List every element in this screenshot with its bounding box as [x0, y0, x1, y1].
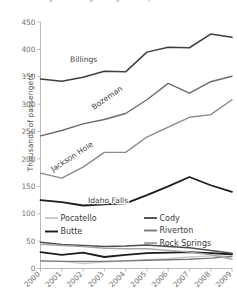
series-line-riverton	[41, 256, 233, 261]
y-tick-label: 450	[21, 18, 35, 27]
legend-label: Cody	[160, 214, 181, 223]
series-line-bozeman	[41, 76, 233, 136]
y-tick-label: 100	[21, 209, 35, 218]
legend-item-riverton[interactable]: Riverton	[144, 226, 193, 235]
y-tick-label: 250	[21, 127, 35, 136]
x-tick-label: 2007	[171, 269, 191, 289]
legend-item-butte[interactable]: Butte	[45, 227, 82, 236]
x-tick-label: 2005	[129, 269, 149, 289]
plot-area: 050100150200250300350400450 200020012002…	[0, 0, 237, 296]
inline-series-label-billings: Billings	[70, 55, 97, 64]
legend-item-pocatello[interactable]: Pocatello	[45, 214, 97, 223]
y-tick-label: 400	[21, 45, 35, 54]
passenger-boardings-line-chart: Passenger boardings at regional airports…	[0, 0, 237, 296]
series-line-jackson-hole	[41, 100, 233, 178]
legend-item-cody[interactable]: Cody	[144, 214, 180, 223]
x-tick-label: 2000	[22, 269, 42, 289]
y-tick-label: 200	[21, 155, 35, 164]
y-tick-label: 50	[26, 237, 36, 246]
x-tick-label: 2009	[214, 269, 234, 289]
x-tick-label: 2001	[44, 269, 64, 289]
inline-series-label-jackson-hole: Jackson Hole	[48, 140, 95, 175]
x-tick-label: 2008	[192, 269, 212, 289]
inline-series-label-bozeman: Bozeman	[90, 84, 124, 112]
x-tick-label: 2003	[86, 269, 106, 289]
series-line-idaho-falls	[41, 177, 233, 205]
y-tick-label: 350	[21, 72, 35, 81]
inline-series-label-idaho-falls: Idaho Falls	[88, 196, 128, 205]
inline-series-labels: BillingsBillingsBozemanBozemanJackson Ho…	[48, 55, 128, 205]
y-axis-ticks: 050100150200250300350400450	[21, 18, 40, 274]
x-tick-label: 2004	[107, 269, 127, 289]
chart-legend[interactable]: PocatelloButteCodyRivertonRock Springs	[45, 214, 211, 248]
legend-label: Pocatello	[61, 214, 97, 223]
legend-label: Riverton	[160, 226, 194, 235]
y-tick-label: 150	[21, 182, 35, 191]
y-tick-label: 300	[21, 100, 35, 109]
x-tick-label: 2002	[65, 270, 85, 290]
legend-label: Rock Springs	[160, 239, 212, 248]
x-axis-ticks: 2000200120022003200420052006200720082009	[22, 269, 233, 290]
legend-label: Butte	[61, 227, 83, 236]
x-tick-label: 2006	[150, 269, 170, 289]
